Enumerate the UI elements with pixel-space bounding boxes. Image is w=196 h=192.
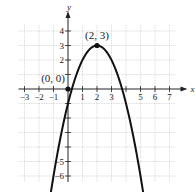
x-axis-label: x: [190, 84, 195, 94]
x-tick-label: 5: [138, 92, 143, 102]
x-tick-label: 3: [109, 92, 114, 102]
x-tick-label: −1: [49, 92, 59, 102]
x-tick-label: 2: [95, 92, 100, 102]
x-axis-arrow-icon: [181, 87, 188, 92]
x-tick-label: −3: [20, 92, 30, 102]
y-tick-label: −6: [54, 171, 64, 181]
parabola-chart: −3−2−1123567432−5−6 (0, 0)(2, 3) x y: [0, 0, 196, 192]
x-tick-label: 1: [80, 92, 85, 102]
grid: [19, 25, 176, 182]
data-point: [65, 86, 70, 91]
point-label: (0, 0): [41, 72, 65, 85]
x-tick-label: −2: [34, 92, 44, 102]
data-point: [94, 43, 99, 48]
point-label: (2, 3): [85, 29, 109, 42]
y-tick-label: 4: [60, 26, 65, 36]
y-tick-label: 2: [60, 55, 65, 65]
x-tick-label: 7: [167, 92, 172, 102]
y-axis-arrow-icon: [66, 11, 71, 18]
y-axis-label: y: [66, 2, 71, 12]
x-tick-label: 6: [153, 92, 158, 102]
y-tick-label: 3: [60, 41, 65, 51]
